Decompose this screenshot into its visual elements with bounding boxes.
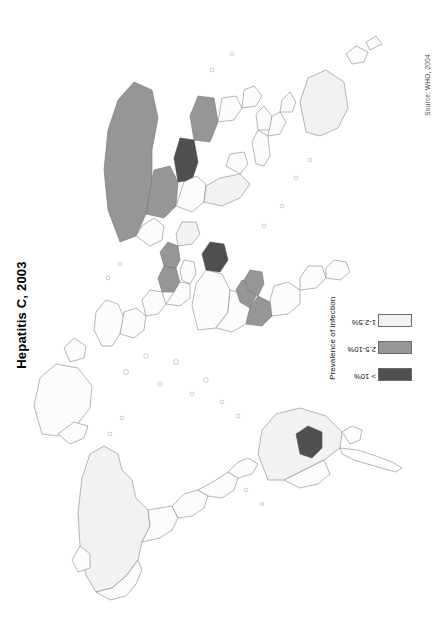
region-south-america — [258, 408, 402, 488]
map-legend: Prevalence of infection > 10% 2.5-10% 1-… — [316, 262, 426, 382]
region-north-america — [78, 446, 258, 600]
region-asia — [104, 82, 262, 246]
region-southeast-asia — [252, 92, 296, 166]
legend-item-medium[interactable]: 2.5-10% — [342, 332, 412, 354]
source-note: Source: WHO, 2004 — [414, 20, 440, 150]
page-title-text: Hepatitis C, 2003 — [14, 261, 29, 368]
legend-label-low: 1-2.5% — [342, 316, 376, 327]
page-title: Hepatitis C, 2003 — [6, 0, 36, 630]
legend-title: Prevalence of infection — [328, 263, 337, 380]
legend-swatch-medium — [378, 341, 412, 354]
legend-label-medium: 2.5-10% — [342, 343, 376, 354]
legend-items: > 10% 2.5-10% 1-2.5% — [342, 263, 412, 381]
source-note-text: Source: WHO, 2004 — [424, 54, 431, 116]
legend-item-low[interactable]: 1-2.5% — [342, 305, 412, 327]
region-europe — [94, 242, 196, 346]
clipped-header-text: HEPATITIS C: GLOBAL PREVALENCE OF INFECT… — [241, 0, 442, 2]
legend-swatch-low — [378, 314, 412, 327]
region-oceania — [300, 36, 382, 136]
legend-label-high: > 10% — [342, 370, 376, 381]
legend-item-high[interactable]: > 10% — [342, 359, 412, 381]
legend-swatch-high — [378, 368, 412, 381]
clipped-header: HEPATITIS C: GLOBAL PREVALENCE OF INFECT… — [0, 0, 448, 14]
